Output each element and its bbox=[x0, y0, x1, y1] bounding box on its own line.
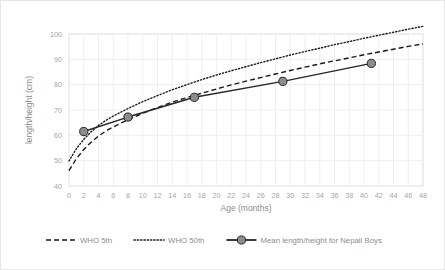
y-axis-tick-label: 50 bbox=[54, 156, 62, 165]
x-axis-tick-label: 20 bbox=[213, 191, 221, 200]
y-axis-title: length/height (cm) bbox=[24, 76, 34, 144]
x-axis-tick-label: 14 bbox=[168, 191, 176, 200]
x-axis-tick-label: 42 bbox=[375, 191, 383, 200]
x-axis-tick-label: 48 bbox=[419, 191, 427, 200]
data-point-marker[interactable] bbox=[279, 77, 287, 85]
x-axis-tick-label: 0 bbox=[67, 191, 71, 200]
data-point-marker[interactable] bbox=[80, 127, 88, 135]
y-axis-tick-label: 90 bbox=[54, 55, 62, 64]
x-axis-tick-label: 36 bbox=[331, 191, 339, 200]
growth-chart-card: 4050607080901000246810121416182022242628… bbox=[0, 0, 445, 270]
x-axis-tick-label: 32 bbox=[301, 191, 309, 200]
y-axis-tick-label: 40 bbox=[54, 182, 62, 191]
x-axis-tick-label: 28 bbox=[272, 191, 280, 200]
legend-item-label[interactable]: Mean length/height for Nepali Boys bbox=[260, 236, 381, 245]
data-point-marker[interactable] bbox=[367, 59, 375, 67]
x-axis-tick-label: 22 bbox=[227, 191, 235, 200]
y-axis-tick-label: 80 bbox=[54, 80, 62, 89]
data-point-marker[interactable] bbox=[124, 113, 132, 121]
x-axis-tick-label: 44 bbox=[390, 191, 398, 200]
legend-item-label[interactable]: WHO 50th bbox=[168, 236, 204, 245]
x-axis-tick-label: 30 bbox=[286, 191, 294, 200]
x-axis-tick-label: 18 bbox=[198, 191, 206, 200]
y-axis-tick-label: 100 bbox=[50, 30, 62, 39]
x-axis-tick-label: 16 bbox=[183, 191, 191, 200]
x-axis-tick-label: 10 bbox=[139, 191, 147, 200]
x-axis-tick-label: 46 bbox=[404, 191, 412, 200]
x-axis-tick-label: 8 bbox=[126, 191, 130, 200]
x-axis-tick-label: 6 bbox=[111, 191, 115, 200]
x-axis-tick-label: 4 bbox=[97, 191, 101, 200]
y-axis-tick-label: 70 bbox=[54, 106, 62, 115]
x-axis-tick-label: 26 bbox=[257, 191, 265, 200]
legend-swatch-marker bbox=[237, 236, 245, 244]
x-axis-tick-label: 12 bbox=[154, 191, 162, 200]
x-axis-title: Age (months) bbox=[220, 203, 271, 213]
growth-chart-svg: 4050607080901000246810121416182022242628… bbox=[1, 1, 445, 270]
data-point-marker[interactable] bbox=[190, 93, 198, 101]
x-axis-tick-label: 38 bbox=[345, 191, 353, 200]
x-axis-tick-label: 24 bbox=[242, 191, 250, 200]
y-axis-tick-label: 60 bbox=[54, 131, 62, 140]
x-axis-tick-label: 40 bbox=[360, 191, 368, 200]
x-axis-tick-label: 34 bbox=[316, 191, 324, 200]
legend-item-label[interactable]: WHO 5th bbox=[80, 236, 112, 245]
x-axis-tick-label: 2 bbox=[82, 191, 86, 200]
